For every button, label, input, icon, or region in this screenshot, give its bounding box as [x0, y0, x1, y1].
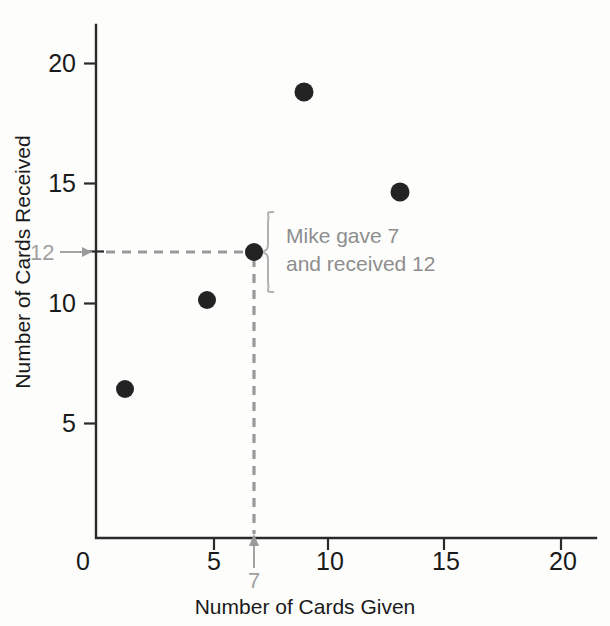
y-tick-label-5: 5 — [62, 409, 76, 437]
callout-line-1: Mike gave 7 — [286, 224, 399, 247]
x-tick-label-15: 15 — [432, 547, 460, 575]
callout-line-2: and received 12 — [286, 252, 435, 275]
y-marker-arrow-head — [82, 247, 92, 257]
x-marker-arrow-head — [249, 534, 259, 546]
x-tick-marks — [214, 538, 561, 550]
scatter-plot-figure: 20 15 10 5 0 5 10 15 20 12 — [0, 0, 610, 626]
y-value-marker: 12 — [30, 240, 92, 265]
data-point — [198, 291, 216, 309]
callout-annotation: Mike gave 7 and received 12 — [286, 224, 435, 275]
axis-group — [96, 25, 596, 538]
plot-canvas: 20 15 10 5 0 5 10 15 20 12 — [0, 0, 610, 626]
data-point — [391, 183, 410, 202]
callout-brace — [262, 212, 274, 292]
x-tick-labels: 0 5 10 15 20 — [76, 547, 577, 575]
data-point — [116, 380, 134, 398]
x-tick-label-10: 10 — [316, 547, 344, 575]
y-axis-title: Number of Cards Received — [11, 135, 34, 388]
x-value-marker: 7 — [248, 534, 260, 593]
data-point-highlighted — [245, 243, 263, 261]
y-tick-label-15: 15 — [48, 169, 76, 197]
data-point — [295, 83, 314, 102]
axis-lines — [96, 25, 596, 538]
x-axis-title: Number of Cards Given — [195, 595, 416, 618]
x-tick-label-0: 0 — [76, 547, 90, 575]
y-tick-label-10: 10 — [48, 289, 76, 317]
x-marker-label-7: 7 — [248, 568, 260, 593]
y-tick-marks — [84, 64, 104, 424]
x-tick-label-20: 20 — [549, 547, 577, 575]
y-tick-label-20: 20 — [48, 49, 76, 77]
brace-icon — [262, 212, 274, 292]
x-tick-label-5: 5 — [207, 547, 221, 575]
